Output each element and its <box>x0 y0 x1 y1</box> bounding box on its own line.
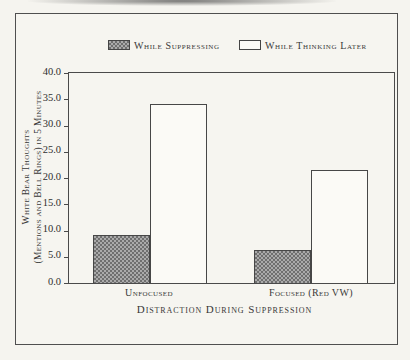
x-category-focused-red-vw: Focused (Red VW) <box>240 287 382 298</box>
x-category-unfocused: Unfocused <box>89 287 209 298</box>
legend-label-while-thinking-later: While Thinking Later <box>265 41 367 51</box>
y-tick-mark-20.0 <box>64 178 69 179</box>
y-tick-mark-30.0 <box>64 126 69 127</box>
y-tick-mark-35.0 <box>64 99 69 100</box>
bar-while-suppressing-focused-red-vw- <box>254 250 311 283</box>
y-tick-mark-15.0 <box>64 204 69 205</box>
bar-while-suppressing-unfocused <box>93 235 150 283</box>
y-tick-mark-5.0 <box>64 257 69 258</box>
bar-while-thinking-later-unfocused <box>150 104 207 283</box>
y-axis-title-line1: White Bear Thoughts <box>21 72 33 282</box>
scan-artifact <box>28 0 336 6</box>
legend-swatch-while-suppressing <box>108 40 130 50</box>
y-axis-title-line2: (Mentions and Bell Rings) in 5 Minutes <box>33 72 45 282</box>
y-tick-mark-40.0 <box>64 73 69 74</box>
bar-while-thinking-later-focused-red-vw- <box>311 170 368 283</box>
legend-swatch-while-thinking-later <box>239 40 261 50</box>
x-axis-title: Distraction During Suppression <box>62 303 387 316</box>
legend-label-while-suppressing: While Suppressing <box>134 41 220 51</box>
y-tick-mark-0.0 <box>64 283 69 284</box>
y-tick-mark-25.0 <box>64 152 69 153</box>
y-tick-mark-10.0 <box>64 231 69 232</box>
plot-area <box>68 72 395 284</box>
y-axis-title: White Bear Thoughts (Mentions and Bell R… <box>21 72 44 282</box>
